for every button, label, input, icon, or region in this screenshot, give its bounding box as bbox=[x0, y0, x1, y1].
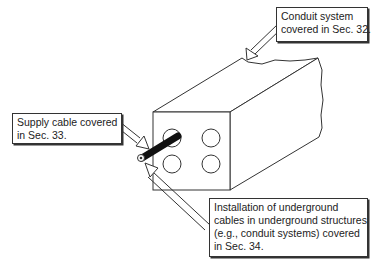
callout-installation-line-2: cables in underground structures bbox=[214, 214, 363, 227]
callout-conduit-line-1: Conduit system bbox=[281, 10, 363, 23]
callout-installation-line-4: in Sec. 34. bbox=[214, 240, 363, 253]
callout-conduit-system: Conduit system covered in Sec. 32. bbox=[276, 7, 368, 42]
callout-supply-line-2: in Sec. 33. bbox=[17, 129, 117, 142]
callout-supply-cable: Supply cable covered in Sec. 33. bbox=[12, 113, 122, 144]
callout-installation: Installation of underground cables in un… bbox=[209, 198, 368, 257]
callout-installation-line-1: Installation of underground bbox=[214, 201, 363, 214]
conduit-opening-bottom-left bbox=[163, 155, 181, 173]
duct-front-face bbox=[153, 112, 230, 190]
callout-conduit-line-2: covered in Sec. 32. bbox=[281, 23, 363, 36]
callout-installation-line-3: (e.g., conduit systems) covered bbox=[214, 227, 363, 240]
conduit-opening-bottom-right bbox=[202, 155, 220, 173]
supply-cable-core bbox=[140, 157, 143, 160]
callout-supply-line-1: Supply cable covered bbox=[17, 116, 117, 129]
conduit-opening-top-right bbox=[202, 129, 220, 147]
diagram-canvas: Conduit system covered in Sec. 32. Suppl… bbox=[0, 0, 380, 263]
